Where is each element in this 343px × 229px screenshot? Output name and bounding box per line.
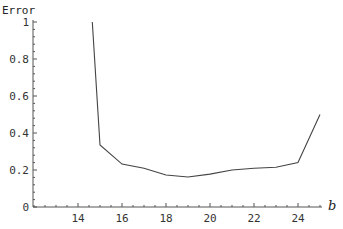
y-tick-label: 0.2 bbox=[9, 164, 29, 177]
y-tick-label: 0.4 bbox=[9, 127, 29, 140]
x-tick-label: 16 bbox=[115, 212, 128, 225]
axes bbox=[33, 20, 322, 207]
x-tick-label: 18 bbox=[159, 212, 172, 225]
error-line-chart: 14161820222400.20.40.60.81 Error b bbox=[0, 0, 343, 229]
y-tick-label: 0 bbox=[22, 201, 29, 214]
x-axis-title: b bbox=[328, 198, 336, 213]
tick-labels: 14161820222400.20.40.60.81 bbox=[9, 16, 305, 225]
x-tick-label: 14 bbox=[71, 212, 85, 225]
y-axis-title: Error bbox=[2, 4, 35, 17]
y-tick-label: 0.8 bbox=[9, 53, 29, 66]
x-tick-label: 22 bbox=[247, 212, 260, 225]
x-tick-label: 20 bbox=[203, 212, 216, 225]
x-tick-label: 24 bbox=[291, 212, 305, 225]
error-series-line bbox=[92, 22, 320, 177]
y-tick-label: 0.6 bbox=[9, 90, 29, 103]
y-tick-label: 1 bbox=[22, 16, 29, 29]
ticks bbox=[33, 22, 320, 207]
